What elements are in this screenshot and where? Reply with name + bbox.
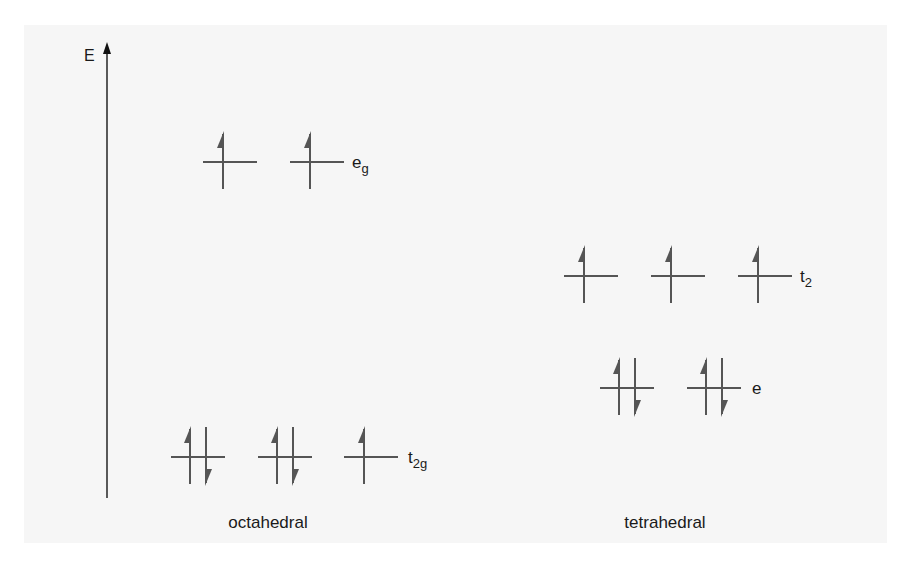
- spin-down-arrowhead-icon: [721, 400, 728, 417]
- spin-down-arrowhead-icon: [634, 400, 641, 417]
- label-subscript: 2: [805, 275, 812, 290]
- level-t2: t2: [564, 245, 812, 303]
- orbital: [171, 426, 225, 486]
- orbital: [600, 357, 654, 417]
- field-captions: octahedraltetrahedral: [228, 513, 705, 532]
- label-subscript: 2g: [413, 456, 427, 471]
- label-main: e: [352, 153, 361, 172]
- level-label-t2: t2: [800, 267, 812, 290]
- axis-label: E: [84, 47, 95, 64]
- orbital-splitting-diagram: E egt2gt2e octahedraltetrahedral: [0, 0, 915, 568]
- spin-up-arrowhead-icon: [613, 357, 620, 374]
- orbital: [344, 426, 398, 484]
- caption-tetrahedral: tetrahedral: [624, 513, 705, 532]
- level-e: e: [600, 357, 761, 417]
- spin-up-arrowhead-icon: [700, 357, 707, 374]
- orbital: [258, 426, 312, 486]
- orbital: [564, 245, 618, 303]
- spin-down-arrowhead-icon: [292, 469, 299, 486]
- level-label-eg: eg: [352, 153, 369, 176]
- spin-down-arrowhead-icon: [205, 469, 212, 486]
- caption-octahedral: octahedral: [228, 513, 307, 532]
- orbital: [290, 131, 344, 189]
- field-tetrahedral: t2e: [564, 245, 812, 417]
- spin-up-arrowhead-icon: [752, 245, 759, 262]
- spin-up-arrowhead-icon: [358, 426, 365, 443]
- label-main: e: [752, 379, 761, 398]
- spin-up-arrowhead-icon: [271, 426, 278, 443]
- energy-axis: E: [84, 42, 111, 498]
- level-t2g: t2g: [171, 426, 427, 486]
- orbital: [203, 131, 257, 189]
- level-eg: eg: [203, 131, 369, 189]
- energy-levels: egt2gt2e: [171, 131, 812, 486]
- spin-up-arrowhead-icon: [304, 131, 311, 148]
- level-label-e: e: [752, 379, 761, 398]
- label-subscript: g: [361, 161, 368, 176]
- spin-up-arrowhead-icon: [217, 131, 224, 148]
- field-octahedral: egt2g: [171, 131, 427, 486]
- spin-up-arrowhead-icon: [665, 245, 672, 262]
- spin-up-arrowhead-icon: [184, 426, 191, 443]
- orbital: [738, 245, 792, 303]
- orbital: [651, 245, 705, 303]
- spin-up-arrowhead-icon: [578, 245, 585, 262]
- level-label-t2g: t2g: [408, 448, 427, 471]
- axis-arrowhead-icon: [103, 42, 111, 54]
- orbital: [687, 357, 741, 417]
